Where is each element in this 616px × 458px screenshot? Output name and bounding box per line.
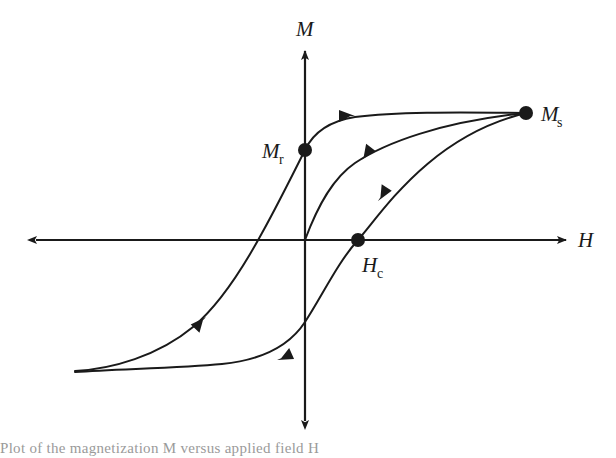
hc-point-marker [351, 233, 365, 247]
hc-label-subscript: c [377, 266, 383, 281]
mr-label-main: M [261, 139, 281, 163]
figure-caption-fragment: Plot of the magnetization M versus appli… [0, 438, 616, 458]
figure-background [0, 0, 616, 458]
mr-point-marker [298, 143, 312, 157]
m-axis-label: M [295, 17, 315, 41]
hysteresis-loop-figure: M H M s M r H c [0, 0, 616, 458]
mr-label-subscript: r [279, 152, 284, 167]
ms-point-marker [519, 106, 533, 120]
ms-label-subscript: s [557, 115, 562, 130]
h-axis-label: H [577, 228, 595, 252]
